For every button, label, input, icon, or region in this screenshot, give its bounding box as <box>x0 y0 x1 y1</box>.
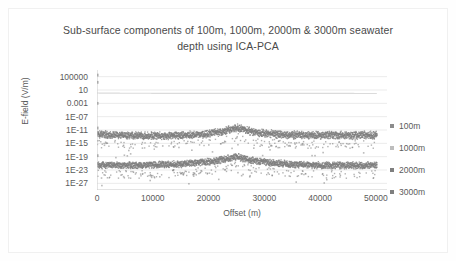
legend-marker-icon <box>390 146 394 150</box>
y-axis-tick-label: 1E-07 <box>65 112 88 122</box>
x-axis-tick-label: 10000 <box>141 193 165 203</box>
series-2000m-band <box>97 123 378 158</box>
x-axis-tick-label: 0 <box>95 193 100 203</box>
legend-marker-icon <box>390 190 394 194</box>
x-axis-tick-label: 30000 <box>252 193 276 203</box>
y-axis-title: E-field (V/m) <box>20 61 30 141</box>
legend-marker-icon <box>390 124 394 128</box>
plot-svg <box>97 70 387 190</box>
plot-area <box>97 70 387 190</box>
y-axis-tick-label: 0.001 <box>67 98 88 108</box>
legend-label: 2000m <box>399 165 425 175</box>
y-axis-tick-labels: 100000100.0011E-071E-111E-151E-191E-231E… <box>34 64 92 196</box>
chart-title-line-2: depth using ICA-PCA <box>46 38 410 54</box>
legend-label: 3000m <box>399 187 425 197</box>
chart-container: Sub-surface components of 100m, 1000m, 2… <box>0 0 456 261</box>
y-axis-tick-label: 10 <box>79 85 88 95</box>
legend-item-2000m[interactable]: 2000m <box>390 159 450 181</box>
y-axis-tick-label: 1E-15 <box>65 138 88 148</box>
x-axis-tick-label: 50000 <box>364 193 388 203</box>
chart-legend: 100m1000m2000m3000m <box>390 115 450 203</box>
legend-label: 100m <box>399 121 420 131</box>
legend-item-100m[interactable]: 100m <box>390 115 450 137</box>
chart-title-line-1: Sub-surface components of 100m, 1000m, 2… <box>46 22 410 38</box>
legend-item-1000m[interactable]: 1000m <box>390 137 450 159</box>
y-axis-tick-label: 1E-23 <box>65 165 88 175</box>
legend-marker-icon <box>390 168 394 172</box>
y-axis-tick-label: 100000 <box>60 72 88 82</box>
y-axis-tick-label: 1E-11 <box>66 125 88 135</box>
y-axis-tick-label: 1E-19 <box>65 152 88 162</box>
x-axis-tick-labels: 01000020000300004000050000 <box>97 193 387 207</box>
legend-item-3000m[interactable]: 3000m <box>390 181 450 203</box>
x-axis-title: Offset (m) <box>97 208 387 218</box>
x-axis-tick-label: 20000 <box>197 193 221 203</box>
x-axis-tick-label: 40000 <box>308 193 332 203</box>
chart-title: Sub-surface components of 100m, 1000m, 2… <box>46 22 410 54</box>
y-axis-tick-label: 1E-27 <box>65 178 88 188</box>
legend-label: 1000m <box>399 143 425 153</box>
